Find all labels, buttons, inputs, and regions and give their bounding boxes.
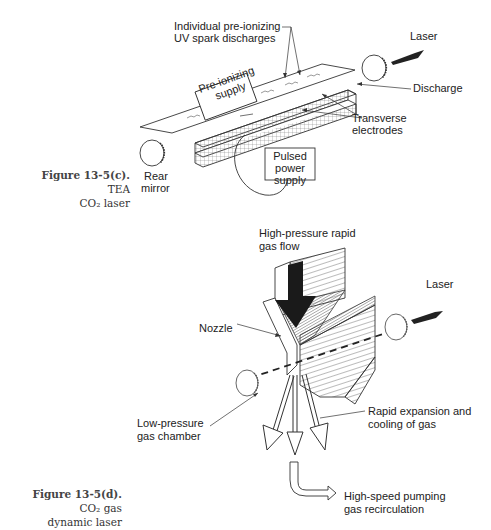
caption-d-number: Figure 13-5(d). bbox=[33, 488, 123, 500]
label-pulsed-power-supply: Pulsed power supply bbox=[265, 150, 315, 186]
caption-d-text-1: CO₂ gas bbox=[79, 502, 122, 514]
label-rapid-expansion: Rapid expansion and bbox=[368, 405, 471, 418]
label-preionizing-discharges-2: UV spark discharges bbox=[174, 32, 276, 45]
output-mirror bbox=[362, 55, 386, 81]
caption-c-text-2: CO₂ laser bbox=[80, 197, 130, 209]
label-gas-flow: High-pressure rapid bbox=[259, 227, 356, 240]
laser-beam-arrow bbox=[391, 50, 424, 65]
label-nozzle: Nozzle bbox=[199, 322, 233, 335]
label-rapid-expansion-2: cooling of gas bbox=[368, 418, 436, 431]
label-low-pressure-chamber-2: gas chamber bbox=[137, 430, 201, 443]
caption-figure-d: Figure 13-5(d). CO₂ gas dynamic laser bbox=[10, 487, 122, 529]
label-transverse-electrodes-2: electrodes bbox=[352, 124, 403, 137]
output-mirror-d bbox=[385, 314, 407, 340]
caption-c-number: Figure 13-5(c). bbox=[41, 169, 130, 181]
label-laser-d: Laser bbox=[426, 278, 454, 291]
label-pulsed-2: power bbox=[265, 162, 315, 174]
label-low-pressure-chamber: Low-pressure bbox=[137, 417, 204, 430]
label-rear-mirror-2: mirror bbox=[141, 182, 170, 195]
label-discharge: Discharge bbox=[413, 82, 463, 95]
caption-c-text-1: TEA bbox=[108, 183, 130, 195]
rear-mirror bbox=[140, 140, 164, 166]
caption-d-text-2: dynamic laser bbox=[48, 516, 122, 528]
label-pulsed-3: supply bbox=[265, 174, 315, 186]
label-pumping: High-speed pumping bbox=[344, 490, 446, 503]
recirculation-arrow bbox=[290, 462, 336, 500]
laser-beam-arrow-d bbox=[411, 311, 443, 324]
label-laser-c: Laser bbox=[410, 30, 438, 43]
rear-mirror-d bbox=[236, 370, 258, 396]
caption-figure-c: Figure 13-5(c). TEA CO₂ laser bbox=[40, 168, 130, 210]
label-pumping-2: gas recirculation bbox=[344, 503, 424, 516]
label-pulsed-1: Pulsed bbox=[265, 150, 315, 162]
label-gas-flow-2: gas flow bbox=[259, 240, 299, 253]
